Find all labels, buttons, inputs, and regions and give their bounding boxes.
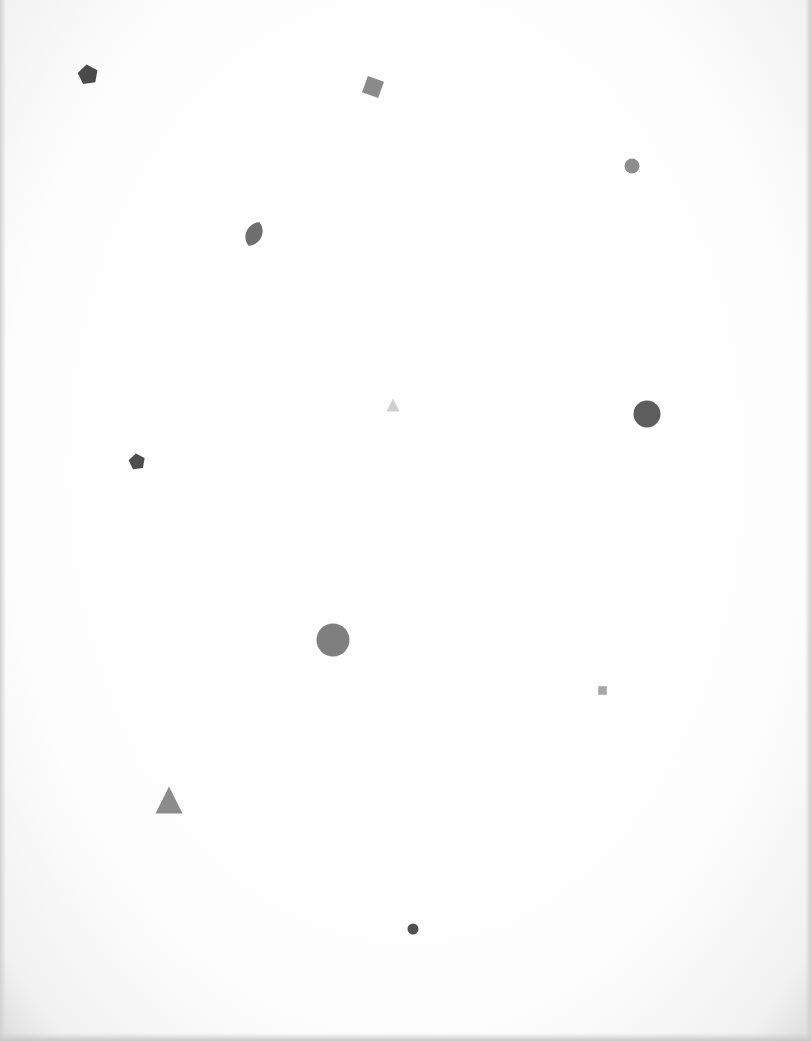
- circle-shape-icon: [633, 400, 661, 428]
- page-edge-left: [0, 0, 6, 1041]
- page-edge-right: [805, 0, 811, 1041]
- square-shape-icon: [362, 76, 384, 98]
- circle-shape-icon: [624, 158, 640, 174]
- pentagon-shape-icon: [128, 452, 146, 470]
- triangle-shape-icon: [386, 398, 400, 412]
- page-edge-bottom: [0, 1033, 811, 1041]
- pentagon-shape-icon: [77, 63, 99, 85]
- leaf-shape-icon: [240, 220, 268, 248]
- scanned-page: [0, 0, 811, 1041]
- triangle-shape-icon: [155, 786, 183, 814]
- square-shape-icon: [597, 685, 608, 696]
- circle-shape-icon: [407, 923, 419, 935]
- circle-shape-icon: [316, 623, 350, 657]
